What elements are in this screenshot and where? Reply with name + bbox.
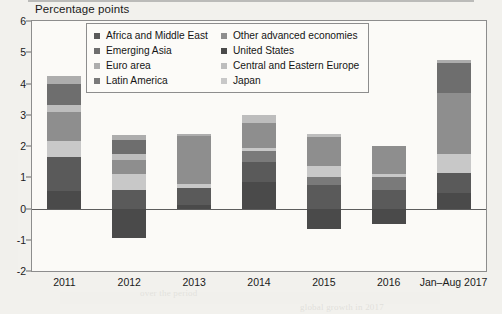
bar-segment[interactable] <box>177 188 211 205</box>
title-divider <box>28 0 474 2</box>
bar-segment[interactable] <box>307 166 341 177</box>
x-axis-tick-label: Jan–Aug 2017 <box>420 276 488 288</box>
bar-segment[interactable] <box>112 140 146 154</box>
y-axis-tick-label: 1 <box>2 172 26 183</box>
legend-item-label: Latin America <box>106 74 168 87</box>
bar-segment[interactable] <box>437 63 471 93</box>
legend-item-label: Euro area <box>106 59 151 72</box>
bar-group[interactable] <box>372 21 406 271</box>
y-axis: 6543210-1-2 <box>0 20 31 272</box>
bar-segment[interactable] <box>307 177 341 185</box>
legend-swatch-icon <box>94 78 100 84</box>
bar-segment[interactable] <box>437 173 471 193</box>
x-axis-tick-label: 2013 <box>182 276 205 288</box>
y-axis-tick-label: 2 <box>2 141 26 152</box>
legend-item-label: Emerging Asia <box>106 44 172 57</box>
x-axis-tick-label: 2012 <box>118 276 141 288</box>
bar-segment[interactable] <box>372 146 406 174</box>
legend-swatch-icon <box>221 63 227 69</box>
legend-item[interactable]: Euro area <box>94 59 208 72</box>
y-axis-tick-label: 6 <box>2 16 26 27</box>
legend-swatch-icon <box>221 33 227 39</box>
bar-segment[interactable] <box>372 209 406 225</box>
legend-item-label: Central and Eastern Europe <box>233 59 359 72</box>
x-axis-tick-label: 2015 <box>312 276 335 288</box>
legend-item[interactable]: Emerging Asia <box>94 44 208 57</box>
bar-group[interactable] <box>47 21 81 271</box>
bar-segment[interactable] <box>242 115 276 123</box>
bar-segment[interactable] <box>242 151 276 162</box>
legend-item-label: United States <box>233 44 294 57</box>
bar-segment[interactable] <box>47 105 81 111</box>
bar-segment[interactable] <box>177 184 211 188</box>
legend-item[interactable]: United States <box>221 44 359 57</box>
bar-segment[interactable] <box>112 174 146 190</box>
y-axis-tick-label: -2 <box>2 266 26 277</box>
bar-segment[interactable] <box>307 209 341 229</box>
x-axis-tick-label: 2016 <box>377 276 400 288</box>
legend-swatch-icon <box>94 48 100 54</box>
bar-segment[interactable] <box>242 148 276 151</box>
y-axis-tick-label: 4 <box>2 78 26 89</box>
bar-segment[interactable] <box>47 112 81 142</box>
legend-item[interactable]: Latin America <box>94 74 208 87</box>
legend-swatch-icon <box>94 63 100 69</box>
y-axis-tick-label: -1 <box>2 235 26 246</box>
bar-segment[interactable] <box>112 209 146 239</box>
legend-item[interactable]: Africa and Middle East <box>94 29 208 42</box>
bar-segment[interactable] <box>177 205 211 208</box>
legend-item[interactable]: Central and Eastern Europe <box>221 59 359 72</box>
bar-segment[interactable] <box>372 174 406 177</box>
bar-segment[interactable] <box>242 182 276 209</box>
bar-segment[interactable] <box>47 141 81 157</box>
legend-item-label: Other advanced economies <box>233 29 358 42</box>
legend-item[interactable]: Other advanced economies <box>221 29 359 42</box>
page-title: Percentage points <box>35 3 129 15</box>
y-axis-tick-label: 3 <box>2 110 26 121</box>
legend-swatch-icon <box>94 33 100 39</box>
bar-segment[interactable] <box>372 177 406 190</box>
bar-segment[interactable] <box>112 160 146 174</box>
y-axis-tick-label: 5 <box>2 47 26 58</box>
bar-segment[interactable] <box>437 60 471 63</box>
legend-column: Africa and Middle EastEmerging AsiaEuro … <box>94 29 208 87</box>
bar-segment[interactable] <box>307 185 341 208</box>
legend-item-label: Africa and Middle East <box>106 29 208 42</box>
bar-segment[interactable] <box>47 84 81 106</box>
chart-legend: Africa and Middle EastEmerging AsiaEuro … <box>86 23 369 93</box>
y-axis-tick-label: 0 <box>2 203 26 214</box>
x-axis-tick-label: 2014 <box>247 276 270 288</box>
legend-item-label: Japan <box>233 74 261 87</box>
bar-segment[interactable] <box>177 136 211 184</box>
bar-group[interactable] <box>437 21 471 271</box>
legend-swatch-icon <box>221 48 227 54</box>
legend-swatch-icon <box>221 78 227 84</box>
bar-segment[interactable] <box>307 134 341 137</box>
bar-segment[interactable] <box>437 193 471 209</box>
bar-segment[interactable] <box>437 93 471 154</box>
bar-segment[interactable] <box>47 157 81 191</box>
legend-item[interactable]: Japan <box>221 74 359 87</box>
bar-segment[interactable] <box>112 135 146 140</box>
bar-segment[interactable] <box>437 154 471 173</box>
chart-page: Percentage points 6543210-1-2 2011201220… <box>0 0 502 314</box>
bar-segment[interactable] <box>177 134 211 137</box>
legend-column: Other advanced economiesUnited StatesCen… <box>221 29 359 87</box>
bar-segment[interactable] <box>47 76 81 84</box>
x-axis: 201120122013201420152016Jan–Aug 2017 <box>31 274 487 296</box>
bar-segment[interactable] <box>372 190 406 209</box>
bar-segment[interactable] <box>307 137 341 167</box>
bar-segment[interactable] <box>242 123 276 148</box>
bar-segment[interactable] <box>112 190 146 209</box>
bar-segment[interactable] <box>47 191 81 208</box>
bar-segment[interactable] <box>112 154 146 160</box>
x-axis-tick-label: 2011 <box>53 276 76 288</box>
bar-segment[interactable] <box>242 162 276 182</box>
